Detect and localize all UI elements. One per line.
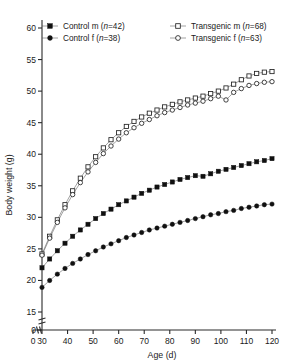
data-point — [209, 172, 213, 176]
growth-curve-chart: 015202530354045505560 030405060708090100… — [0, 0, 284, 364]
data-point — [101, 211, 105, 215]
x-tick-label: 90 — [191, 336, 201, 346]
x-axis: 030405060708090100110120 — [31, 327, 280, 347]
data-point — [239, 86, 243, 90]
y-tick-label: 55 — [27, 55, 37, 65]
data-point — [201, 94, 205, 98]
legend-item: Transgenic f (n=63) — [170, 34, 262, 43]
x-tick-label: 70 — [139, 336, 149, 346]
y-axis-title: Body weight (g) — [4, 154, 14, 215]
data-point — [116, 137, 120, 141]
data-point — [55, 249, 59, 253]
data-point — [40, 253, 44, 257]
data-point — [201, 174, 205, 178]
x-tick-label: 110 — [240, 336, 254, 346]
x-tick-label: 40 — [63, 336, 73, 346]
data-point — [109, 144, 113, 148]
data-point — [93, 249, 97, 253]
data-point — [208, 96, 212, 100]
data-point — [216, 94, 220, 98]
data-point — [124, 124, 128, 128]
x-tick-label: 50 — [88, 336, 98, 346]
data-point — [262, 203, 266, 207]
x-tick-label: 80 — [165, 336, 175, 346]
y-tick-label: 60 — [27, 23, 37, 33]
y-tick-label: 20 — [27, 275, 37, 285]
data-point — [47, 236, 51, 240]
data-point — [170, 222, 174, 226]
data-point — [208, 213, 212, 217]
data-point — [86, 222, 90, 226]
data-point — [193, 174, 197, 178]
y-tick-label: 30 — [27, 212, 37, 222]
data-point — [155, 226, 159, 230]
data-point — [247, 205, 251, 209]
data-point — [232, 82, 236, 86]
data-point — [140, 191, 144, 195]
series-connector-line — [42, 159, 272, 268]
y-tick-label: 15 — [27, 307, 37, 317]
data-point — [71, 234, 75, 238]
data-point — [117, 203, 121, 207]
series-connector-line — [42, 204, 272, 287]
data-point — [116, 238, 120, 242]
data-point — [124, 199, 128, 203]
data-point — [124, 131, 128, 135]
data-point — [193, 216, 197, 220]
data-point — [86, 170, 90, 174]
legend-marker-open-circle — [176, 36, 181, 41]
data-point — [209, 92, 213, 96]
data-point — [109, 242, 113, 246]
data-point — [270, 157, 274, 161]
data-point — [224, 209, 228, 213]
data-point — [163, 182, 167, 186]
data-point — [170, 108, 174, 112]
data-point — [139, 230, 143, 234]
legend-item: Control f (n=38) — [42, 34, 120, 43]
data-point — [178, 177, 182, 181]
series-transgenic-f — [40, 79, 274, 257]
data-point — [63, 241, 67, 245]
legend-item: Transgenic m (n=68) — [170, 22, 267, 31]
x-tick-label: 100 — [214, 336, 228, 346]
data-point — [178, 100, 182, 104]
legend-label: Transgenic m (n=68) — [191, 22, 267, 31]
data-point — [109, 207, 113, 211]
data-point — [55, 220, 59, 224]
data-point — [155, 114, 159, 118]
y-tick-label: 45 — [27, 118, 37, 128]
chart-legend: Control m (n=42)Transgenic m (n=68)Contr… — [42, 22, 267, 43]
data-point — [224, 98, 228, 102]
data-point — [247, 74, 251, 78]
data-point — [86, 165, 90, 169]
data-point — [247, 162, 251, 166]
data-point — [48, 257, 52, 261]
legend-item: Control m (n=42) — [42, 22, 125, 31]
data-point — [101, 146, 105, 150]
data-point — [262, 158, 266, 162]
data-point — [270, 69, 274, 73]
data-point — [262, 80, 266, 84]
data-point — [163, 105, 167, 109]
data-point — [132, 195, 136, 199]
data-point — [147, 117, 151, 121]
series-control-f — [40, 202, 274, 290]
data-point — [201, 99, 205, 103]
data-point — [47, 278, 51, 282]
data-point — [132, 119, 136, 123]
data-point — [55, 272, 59, 276]
data-point — [216, 89, 220, 93]
data-point — [78, 176, 82, 180]
data-point — [117, 131, 121, 135]
data-point — [101, 151, 105, 155]
figure-container: 015202530354045505560 030405060708090100… — [0, 0, 284, 364]
data-point — [185, 218, 189, 222]
data-point — [216, 211, 220, 215]
x-axis-title: Age (d) — [148, 350, 177, 360]
legend-label: Control m (n=42) — [63, 22, 125, 31]
data-point — [155, 185, 159, 189]
data-point — [231, 90, 235, 94]
data-point — [201, 215, 205, 219]
data-point — [132, 126, 136, 130]
y-tick-label: 50 — [27, 86, 37, 96]
